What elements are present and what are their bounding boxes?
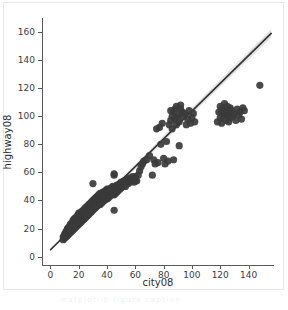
y-tick-label: 20 [24, 224, 35, 233]
scatter-point [159, 120, 166, 127]
y-tick-mark [38, 144, 42, 145]
x-tick-mark [249, 265, 250, 269]
scatter-point [111, 207, 118, 214]
y-tick-mark [38, 200, 42, 201]
plot-axes: 020406080100120140160 020406080100120140 [42, 18, 274, 265]
scatter-point [149, 172, 156, 179]
x-tick-mark [107, 265, 108, 269]
scatter-points [60, 82, 264, 244]
scatter-point [190, 110, 197, 117]
x-tick-mark [79, 265, 80, 269]
y-tick-mark [38, 88, 42, 89]
scatter-point [89, 180, 96, 187]
y-axis-spine [42, 18, 43, 265]
scatter-point [163, 138, 170, 145]
y-tick-label: 80 [24, 140, 35, 149]
x-tick-mark [220, 265, 221, 269]
cropped-caption: matplotlib figure caption [60, 296, 230, 304]
x-axis-spine [42, 265, 274, 266]
x-tick-mark [164, 265, 165, 269]
y-tick-mark [38, 32, 42, 33]
y-tick-label: 140 [18, 56, 35, 65]
x-axis-label: city08 [42, 278, 274, 288]
y-tick-label: 60 [24, 168, 35, 177]
y-tick-label: 0 [29, 252, 35, 261]
y-tick-mark [38, 116, 42, 117]
y-tick-mark [38, 172, 42, 173]
y-tick-mark [38, 229, 42, 230]
scatter-point [191, 118, 198, 125]
y-tick-label: 100 [18, 112, 35, 121]
scatter-point [256, 82, 263, 89]
x-tick-mark [50, 265, 51, 269]
y-tick-label: 120 [18, 84, 35, 93]
scatter-point [241, 107, 248, 114]
x-tick-mark [192, 265, 193, 269]
scatter-plot-figure: highway08 020406080100120140160 02040608… [0, 0, 288, 310]
scatter-point [177, 101, 184, 108]
scatter-point [238, 115, 245, 122]
x-axis-label-text: city08 [143, 277, 174, 288]
y-axis-label: highway08 [2, 18, 14, 265]
scatter-point [111, 170, 118, 177]
scatter-point [170, 156, 177, 163]
plot-canvas [42, 18, 274, 265]
y-tick-label: 160 [18, 28, 35, 37]
scatter-point [176, 142, 183, 149]
x-tick-mark [135, 265, 136, 269]
y-tick-mark [38, 60, 42, 61]
y-tick-mark [38, 257, 42, 258]
y-tick-label: 40 [24, 196, 35, 205]
y-axis-label-text: highway08 [3, 114, 13, 169]
